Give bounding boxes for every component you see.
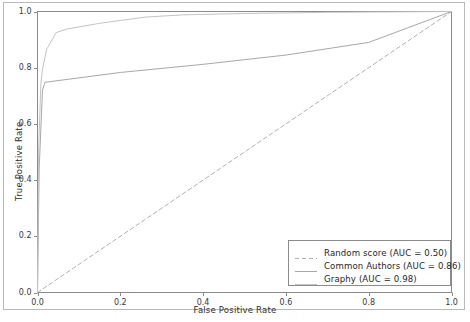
y-tick-label-4: 0.8: [2, 63, 32, 72]
x-tick-label-1: 0.2: [100, 298, 140, 307]
y-tick-label-5: 1.0: [2, 7, 32, 16]
x-tick-label-0: 0.0: [18, 298, 58, 307]
legend-item-2[interactable]: Graphy (AUC = 0.98): [289, 271, 450, 286]
roc-curve-figure: False Positive Rate True Positive Rate 0…: [0, 0, 470, 322]
x-axis-label: False Positive Rate: [0, 305, 470, 315]
legend-label-0: Random score (AUC = 0.50): [324, 248, 447, 258]
x-tick-label-5: 1.0: [432, 298, 470, 307]
legend-label-1: Common Authors (AUC = 0.86): [324, 261, 461, 271]
x-tick-label-4: 0.8: [349, 298, 389, 307]
x-tick-label-3: 0.6: [266, 298, 306, 307]
y-tick-label-2: 0.4: [2, 175, 32, 184]
y-tick-label-3: 0.6: [2, 119, 32, 128]
legend-swatch-2: [295, 274, 317, 284]
legend[interactable]: Random score (AUC = 0.50)Common Authors …: [288, 240, 451, 286]
y-axis-label: True Positive Rate: [14, 122, 24, 201]
y-tick-label-0: 0.0: [2, 288, 32, 297]
y-tick-label-1: 0.2: [2, 231, 32, 240]
legend-label-2: Graphy (AUC = 0.98): [324, 274, 417, 284]
legend-swatch-0: [295, 248, 317, 258]
legend-swatch-1: [295, 261, 317, 271]
x-tick-label-2: 0.4: [183, 298, 223, 307]
